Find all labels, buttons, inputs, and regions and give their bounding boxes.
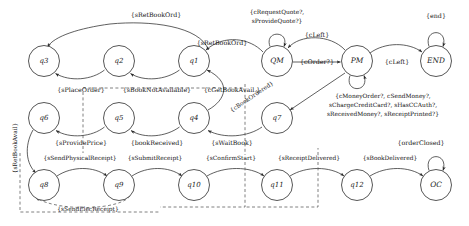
state-OC[interactable]: OC bbox=[421, 170, 452, 201]
state-label-q1: q1 bbox=[190, 57, 199, 65]
edge-label-END-self: {end} bbox=[426, 12, 446, 20]
edge-q6-q8 bbox=[27, 130, 36, 173]
edge-label-q6-q8: {sRetBookAvail} bbox=[12, 123, 18, 174]
state-label-q5: q5 bbox=[115, 114, 124, 122]
state-q1[interactable]: q1 bbox=[179, 46, 210, 77]
state-q5[interactable]: q5 bbox=[104, 103, 135, 134]
transition-labels: {sRetBookOrd} {sPlaceOrder} {sBookNotAva… bbox=[12, 9, 446, 213]
state-END[interactable]: END bbox=[421, 46, 452, 77]
state-q12[interactable]: q12 bbox=[342, 170, 373, 201]
edge-END-self bbox=[428, 33, 444, 47]
edge-label-q5-q6: {sProvidePrice} bbox=[55, 139, 107, 147]
state-label-OC: OC bbox=[430, 180, 442, 189]
state-label-q6: q6 bbox=[40, 114, 49, 122]
edge-q3-q1 bbox=[48, 23, 209, 50]
edge-label-QM-self-line2: sProvideQuote?} bbox=[252, 18, 303, 24]
edge-label-q8-q9: {sSendPhysicalReceipt} bbox=[43, 155, 116, 162]
edge-label-q9-q10: {sSubmitReceipt} bbox=[128, 155, 183, 162]
edge-PM-END bbox=[370, 45, 422, 53]
edge-label-PM-self-line2: sChargeCreditCard?, sHasCCAuth?, bbox=[329, 102, 437, 109]
edge-label-q7-q4: {sWaitBook} bbox=[211, 139, 253, 147]
edge-q2-q3 bbox=[56, 70, 105, 79]
state-q9[interactable]: q9 bbox=[104, 170, 135, 201]
edge-label-PM-QM: {cLeft} bbox=[305, 31, 329, 39]
state-q10[interactable]: q10 bbox=[179, 170, 210, 201]
state-q11[interactable]: q11 bbox=[262, 170, 293, 201]
edge-label-PM-self-line1: {cMoneyOrder?, cSendMoney?, bbox=[335, 93, 431, 100]
state-label-END: END bbox=[426, 56, 445, 65]
edge-PM-self bbox=[349, 76, 365, 89]
state-label-q10: q10 bbox=[187, 181, 201, 189]
state-machine-diagram: q3 q2 q1 QM PM END bbox=[0, 0, 469, 226]
state-label-q9: q9 bbox=[115, 181, 124, 189]
state-PM[interactable]: PM bbox=[342, 46, 373, 77]
edge-q1-q2 bbox=[131, 70, 180, 79]
edge-label-q1-q2: {sBookNotAvailable} bbox=[123, 86, 191, 94]
fsm-canvas: q3 q2 q1 QM PM END bbox=[0, 0, 469, 226]
state-QM[interactable]: QM bbox=[262, 46, 293, 77]
edge-label-QM-q1: {sRetBookOrd} bbox=[197, 39, 247, 47]
state-label-q11: q11 bbox=[270, 181, 283, 189]
state-q3[interactable]: q3 bbox=[29, 46, 60, 77]
edge-label-PM-END: {cLeft} bbox=[385, 58, 409, 66]
state-label-q2: q2 bbox=[115, 57, 124, 65]
state-label-q4: q4 bbox=[190, 114, 199, 122]
state-label-q8: q8 bbox=[40, 181, 49, 189]
edge-q11-q12 bbox=[290, 169, 344, 177]
state-label-PM: PM bbox=[350, 56, 364, 65]
edge-label-QM-self-line1: {cRequestQuote?, bbox=[250, 9, 305, 16]
edge-q7-q4 bbox=[208, 127, 262, 136]
transition-edges bbox=[20, 23, 444, 212]
edge-q4-q5 bbox=[131, 127, 180, 136]
state-nodes: q3 q2 q1 QM PM END bbox=[29, 46, 452, 201]
edge-q12-OC bbox=[370, 169, 423, 177]
edge-q9-q10 bbox=[132, 169, 182, 177]
edge-label-q10-q11: {sConfirmStart} bbox=[206, 155, 256, 161]
edge-q10-q11 bbox=[207, 169, 264, 177]
state-label-QM: QM bbox=[270, 56, 284, 65]
edge-QM-self bbox=[269, 34, 285, 46]
state-label-q7: q7 bbox=[273, 114, 282, 122]
edge-label-q12-OC: {sBookDelivered} bbox=[363, 155, 418, 161]
edge-label-QM-PM: {cOrder?} bbox=[300, 58, 334, 66]
state-q7[interactable]: q7 bbox=[262, 103, 293, 134]
state-q4[interactable]: q4 bbox=[179, 103, 210, 134]
state-label-q3: q3 bbox=[40, 57, 49, 65]
edge-label-q11-q12: {sReceiptDelivered} bbox=[278, 155, 340, 162]
edge-label-OC-self: {orderClosed} bbox=[397, 139, 444, 147]
edge-label-q9-q8-dashed: {sSendElecReceipt} bbox=[57, 206, 119, 213]
edge-label-q2-q3: {sPlaceOrder} bbox=[57, 86, 104, 94]
state-q2[interactable]: q2 bbox=[104, 46, 135, 77]
edge-q5-q6 bbox=[56, 127, 105, 136]
edge-PM-QM bbox=[288, 38, 345, 50]
edge-label-q3-q1: {sRetBookOrd} bbox=[131, 11, 181, 19]
edge-OC-self bbox=[428, 157, 444, 171]
state-q8[interactable]: q8 bbox=[29, 170, 60, 201]
edge-label-PM-self-line3: sReceivedMoney?, sReceiptPrinted?} bbox=[327, 111, 439, 118]
edge-label-q4-q5: {bookReceived} bbox=[131, 139, 184, 147]
state-q6[interactable]: q6 bbox=[29, 103, 60, 134]
state-label-q12: q12 bbox=[350, 181, 364, 189]
edge-q8-q9 bbox=[57, 169, 107, 177]
